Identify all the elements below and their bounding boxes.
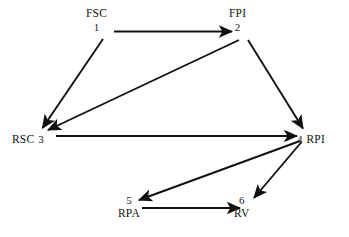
node-rsc-number: 3: [38, 133, 44, 145]
node-rsc[interactable]: RSC3: [12, 130, 44, 146]
node-rpi-number: 4: [297, 133, 303, 145]
edge-rpi-to-rv: [254, 142, 302, 198]
node-fpi-number: 2: [229, 22, 246, 33]
node-rpa-code: RPA: [118, 208, 140, 220]
node-rv[interactable]: 6 RV: [234, 195, 249, 220]
node-fsc-code: FSC: [86, 8, 107, 20]
node-rv-number: 6: [234, 195, 249, 206]
node-fpi-code: FPI: [229, 8, 246, 20]
node-rpi-code: RPI: [307, 133, 326, 145]
node-rpa-number: 5: [118, 195, 140, 206]
node-fsc[interactable]: FSC 1: [86, 8, 107, 33]
node-rv-code: RV: [234, 208, 249, 220]
edge-fsc-to-rsc: [43, 39, 104, 128]
edge-fpi-to-rsc: [48, 40, 239, 130]
node-fsc-number: 1: [86, 22, 107, 33]
node-fpi[interactable]: FPI 2: [229, 8, 246, 33]
node-rpi[interactable]: 4RPI: [297, 130, 325, 146]
edge-layer: [0, 0, 349, 237]
node-rsc-code: RSC: [12, 133, 34, 145]
edge-rpi-to-rpa: [139, 141, 300, 200]
node-rpa[interactable]: 5 RPA: [118, 195, 140, 220]
edge-fpi-to-rpi: [248, 40, 303, 129]
diagram-canvas: FSC 1 FPI 2 RSC3 4RPI 5 RPA 6 RV: [0, 0, 349, 237]
